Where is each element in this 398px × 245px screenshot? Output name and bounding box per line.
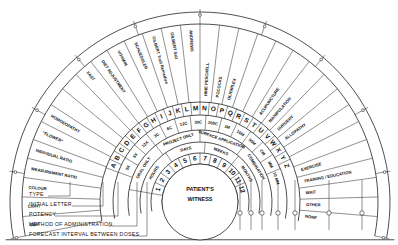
number-divider <box>189 154 192 165</box>
interval-divider <box>141 192 152 194</box>
letter-cell: O <box>210 105 216 113</box>
outer-tick-marker <box>77 58 80 61</box>
number-cell: 6 <box>193 154 198 161</box>
pointer-marker <box>238 211 242 215</box>
letter-cell: A <box>109 162 117 169</box>
potency-cell: 12C <box>179 121 188 127</box>
potency-cell: 200C <box>208 120 219 127</box>
type-segment-label: EXERCISE <box>300 161 322 172</box>
witness-circle <box>162 164 238 240</box>
letter-cell: F <box>135 126 143 134</box>
chart-svg: GEMLIGHTCOLOURMEASUREMENT RATIOINDIVIDUA… <box>0 0 398 245</box>
letter-cell: G <box>142 120 150 129</box>
type-segment-label: HOMOEOPATHY <box>50 113 81 134</box>
type-segment-label: WAIT <box>305 189 316 195</box>
letter-cell: N <box>202 104 207 111</box>
number-divider <box>152 193 163 195</box>
potency-cell: CM <box>259 148 267 157</box>
type-divider <box>261 61 309 123</box>
legend-leader <box>72 182 103 206</box>
type-segment-label: OLIGIPLEX <box>226 78 237 101</box>
letter-divider <box>191 102 192 115</box>
pointer-marker <box>260 211 264 215</box>
potency-divider <box>231 123 237 137</box>
interval-cell: DAYS <box>180 145 192 153</box>
letter-cell: J <box>167 109 173 117</box>
potency-divider <box>125 158 138 166</box>
letter-cell: L <box>184 105 189 112</box>
pointer-marker <box>293 211 297 215</box>
method-divider <box>129 189 141 191</box>
interval-cell: WEEKS <box>213 146 229 157</box>
type-divider <box>294 139 367 166</box>
center-line-1: PATIENT'S <box>186 186 214 192</box>
potency-divider <box>205 115 206 130</box>
type-divider <box>232 34 257 108</box>
type-divider <box>252 50 293 116</box>
number-cell: 5 <box>182 156 188 164</box>
letter-cell: R <box>235 112 242 120</box>
pointer-marker <box>360 211 364 215</box>
legend-leader <box>133 182 147 236</box>
potency-cell: 6X <box>132 151 139 158</box>
potency-cell: 10 MM <box>272 171 281 185</box>
outer-tick-marker <box>382 236 385 239</box>
letter-cell: P <box>219 106 225 114</box>
type-divider <box>180 25 189 103</box>
potency-cell: 12X <box>141 140 150 149</box>
pointer-marker <box>276 211 280 215</box>
number-cell: 1 <box>154 186 162 192</box>
type-segment-label: SURGERY <box>276 114 295 132</box>
type-divider <box>300 197 378 199</box>
number-cell: 3 <box>164 168 172 176</box>
type-divider <box>284 105 349 148</box>
type-segment-label: ANDREWS <box>188 30 194 52</box>
number-cell: 2 <box>158 176 166 183</box>
type-segment-label: HINE PESCHELL <box>203 62 210 96</box>
potency-divider <box>174 119 178 133</box>
number-cell: 8 <box>212 156 218 164</box>
pointer-lines <box>238 180 364 230</box>
number-cell: 4 <box>172 161 179 169</box>
legend-potency: POTENCY <box>29 211 56 217</box>
letter-cell: Y <box>279 154 288 162</box>
letter-cell: T <box>250 121 257 129</box>
outer-tick-marker <box>14 171 17 174</box>
type-segment-label: FAST <box>85 70 96 82</box>
potency-divider <box>218 118 222 133</box>
legend-leader <box>48 182 70 196</box>
potency-cell: 50M <box>248 137 258 146</box>
type-divider <box>22 197 100 199</box>
number-cell: 9 <box>221 161 228 169</box>
interval-divider <box>204 142 205 153</box>
type-segment-label: NONE <box>305 214 318 221</box>
outer-tick-marker <box>36 109 39 112</box>
outer-tick-marker <box>320 58 323 61</box>
number-divider <box>209 154 212 165</box>
outer-tick-marker <box>15 236 18 239</box>
potency-divider <box>190 116 192 131</box>
radionic-chart-diagram: GEMLIGHTCOLOURMEASUREMENT RATIOINDIVIDUA… <box>0 0 398 245</box>
letter-cell: K <box>175 106 181 114</box>
potency-cell: MM <box>267 160 275 169</box>
type-segment-label: MEASUREMENT RATIO <box>31 166 79 180</box>
letter-cell: Q <box>227 109 234 118</box>
potency-cell: 10M <box>236 129 246 138</box>
number-cell: 12 <box>238 185 247 194</box>
outer-tick-marker <box>263 25 266 28</box>
type-segment-label: GILBERT Salt <box>170 32 180 60</box>
potency-cell: 6C <box>166 125 173 132</box>
type-segment-label: OTHER <box>306 202 321 207</box>
letter-cell: Z <box>283 162 291 168</box>
potency-cell: 3C <box>153 131 160 138</box>
letter-divider <box>208 102 209 115</box>
outer-tick-marker <box>383 171 386 174</box>
interval-divider <box>166 153 172 162</box>
type-segment-label: ALLOPATHY <box>284 122 307 141</box>
type-segment-label: "FLOWER" <box>42 130 64 143</box>
letter-cell: H <box>150 116 158 125</box>
legend-initial-letter: INITIAL LETTER <box>29 201 72 207</box>
outer-tick-marker <box>199 14 202 17</box>
outer-tick-marker <box>362 109 365 112</box>
method-divider <box>156 145 163 154</box>
